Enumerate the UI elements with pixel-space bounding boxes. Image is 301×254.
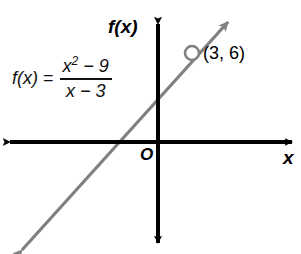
y-axis-label: f(x) — [108, 17, 138, 36]
origin-label: O — [140, 146, 153, 163]
x-axis-label: x — [283, 148, 294, 167]
fraction-numerator: x2 − 9 — [60, 56, 112, 78]
open-circle-hole-marker — [185, 46, 199, 60]
hole-point-label: (3, 6) — [203, 44, 245, 62]
numerator-variable: x — [63, 56, 72, 76]
equation-left-side: f(x) — [12, 68, 38, 89]
function-equation: f(x) = x2 − 9 x − 3 — [12, 56, 112, 101]
equals-sign: = — [43, 68, 54, 89]
fraction-denominator: x − 3 — [63, 80, 109, 102]
numerator-remainder: − 9 — [78, 56, 109, 76]
equation-fraction: x2 − 9 x − 3 — [60, 56, 112, 101]
function-graph-figure: f(x) x O (3, 6) f(x) = x2 − 9 x − 3 — [0, 0, 301, 254]
graph-canvas — [0, 0, 301, 254]
